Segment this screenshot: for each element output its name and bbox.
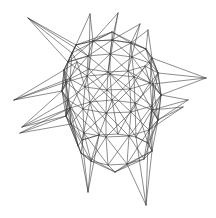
wireframe-figure: 3D wireframe polyhedron mesh Line-art wi… bbox=[0, 0, 216, 218]
canvas-background bbox=[0, 0, 216, 218]
